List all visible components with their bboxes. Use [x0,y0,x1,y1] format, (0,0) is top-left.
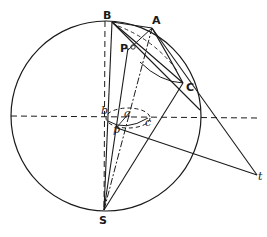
small-circle-C [140,62,183,83]
label-C: C [186,81,194,94]
label-B: B [103,9,111,22]
label-S: S [99,214,107,227]
label-t: t [258,170,263,183]
stereographic-projection-figure: B A P C b a c p t S [0,0,267,237]
label-P: P [120,42,128,55]
horizontal-dashed-diameter [11,116,257,118]
line-p-t [117,128,257,175]
label-c: c [145,116,151,129]
line-A-t [152,28,257,175]
diagram: B A P C b a c p t S [0,0,267,237]
label-p: p [113,123,120,136]
label-a: a [124,107,131,120]
label-b: b [101,104,108,117]
label-A: A [152,14,161,27]
